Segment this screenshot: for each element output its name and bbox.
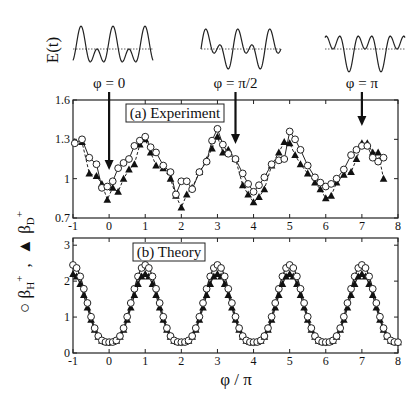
x-tick-label: 7 xyxy=(359,354,365,368)
circle-marker xyxy=(167,169,174,176)
circle-marker xyxy=(189,333,196,340)
circle-marker xyxy=(301,300,308,307)
circle-marker xyxy=(93,161,100,168)
circle-marker xyxy=(256,182,263,189)
circle-marker xyxy=(153,285,160,292)
circle-marker xyxy=(189,186,196,193)
x-tick-label: 6 xyxy=(323,219,329,233)
triangle-marker xyxy=(297,160,305,167)
circle-marker xyxy=(340,313,347,320)
circle-marker xyxy=(149,273,156,280)
circle-marker xyxy=(124,313,131,320)
triangle-marker xyxy=(85,169,93,176)
x-axis-label: φ / π xyxy=(220,370,252,389)
waveform-axis-label: E(t) xyxy=(43,37,62,63)
x-tick-label: 4 xyxy=(251,354,257,368)
circle-marker xyxy=(272,300,279,307)
triangle-marker xyxy=(114,188,122,195)
circle-marker xyxy=(268,161,275,168)
circle-marker xyxy=(304,313,311,320)
y-tick-label: 3 xyxy=(64,238,70,252)
triangle-marker-symbol: ▲ xyxy=(15,238,34,255)
waveform-curve xyxy=(325,36,405,72)
x-tick-label: 7 xyxy=(359,219,365,233)
circle-marker-symbol: ○ xyxy=(15,303,34,313)
circle-marker xyxy=(308,325,315,332)
x-tick-label: 8 xyxy=(395,219,401,233)
title-text: (a) Experiment xyxy=(130,105,221,122)
circle-marker xyxy=(373,300,380,307)
circle-marker xyxy=(250,188,257,195)
circle-marker xyxy=(91,325,98,332)
circle-marker xyxy=(245,181,252,188)
circle-marker xyxy=(340,166,347,173)
svg-text:○ βH+ , ▲: ○ βH+ , ▲ βD+ xyxy=(8,211,36,313)
circle-marker xyxy=(366,273,373,280)
waveform-2: φ = π xyxy=(325,36,405,91)
circle-marker xyxy=(160,313,167,320)
circle-marker xyxy=(232,156,239,163)
circle-marker xyxy=(281,156,288,163)
circle-marker xyxy=(236,325,243,332)
phase-label: φ = π/2 xyxy=(214,75,258,91)
circle-marker xyxy=(153,149,160,156)
circle-marker xyxy=(348,152,355,159)
triangle-marker xyxy=(380,175,388,182)
x-tick-label: 3 xyxy=(214,354,220,368)
phase-label: φ = 0 xyxy=(93,75,125,91)
circle-marker xyxy=(109,178,116,185)
circle-marker xyxy=(214,125,221,132)
triangle-marker xyxy=(280,138,288,145)
circle-marker xyxy=(380,325,387,332)
circle-marker xyxy=(380,154,387,161)
x-tick-label: 2 xyxy=(178,219,184,233)
y-tick-label: 0.7 xyxy=(55,211,70,225)
waveform-1: φ = π/2 xyxy=(201,29,281,91)
circle-marker xyxy=(163,325,170,332)
circle-marker xyxy=(183,178,190,185)
circle-marker xyxy=(73,265,80,272)
circle-marker xyxy=(200,300,207,307)
circle-marker xyxy=(333,175,340,182)
circle-marker xyxy=(225,150,232,157)
triangle-marker xyxy=(347,168,355,175)
circle-marker xyxy=(377,313,384,320)
circle-marker xyxy=(333,333,340,340)
triangle-marker xyxy=(120,175,128,182)
circle-marker xyxy=(362,265,369,272)
circle-marker xyxy=(115,165,122,172)
arrow-head-icon xyxy=(231,134,240,144)
arrow-head-icon xyxy=(357,116,366,126)
circle-marker xyxy=(239,170,246,177)
plot-theory: -10123456780123(b) Theory xyxy=(64,238,402,368)
y-tick-label: 1.6 xyxy=(55,93,70,107)
circle-marker xyxy=(221,273,228,280)
y-tick-label: 1 xyxy=(64,310,70,324)
x-tick-label: 5 xyxy=(287,354,293,368)
circle-marker xyxy=(286,128,293,135)
circle-marker xyxy=(292,136,299,143)
circle-marker xyxy=(232,313,239,320)
circle-marker xyxy=(196,169,203,176)
waveform-0: φ = 0 xyxy=(73,26,153,91)
arrow-head-icon xyxy=(105,160,114,170)
y-tick-label: 2 xyxy=(64,274,70,288)
circle-marker xyxy=(77,273,84,280)
circle-marker xyxy=(86,154,93,161)
y-axis-label: ○ βH+ , ▲ βD+ xyxy=(8,211,36,313)
circle-marker xyxy=(84,300,91,307)
circle-marker xyxy=(142,133,149,140)
triangle-marker xyxy=(104,196,112,203)
circle-marker xyxy=(203,158,210,165)
circle-marker xyxy=(265,325,272,332)
circle-marker xyxy=(104,183,111,190)
plot-title-theory: (b) Theory xyxy=(133,243,205,261)
circle-marker xyxy=(126,156,133,163)
circle-marker xyxy=(369,285,376,292)
y-tick-label: 0 xyxy=(64,346,70,360)
title-text: (b) Theory xyxy=(137,244,202,261)
circle-marker xyxy=(225,285,232,292)
x-tick-label: 8 xyxy=(395,354,401,368)
circle-marker xyxy=(297,285,304,292)
circle-marker xyxy=(312,174,319,181)
